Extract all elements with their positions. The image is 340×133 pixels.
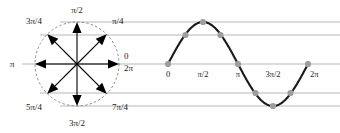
circle-label-8: 7π/4 bbox=[112, 102, 129, 112]
trig-figure: 02ππ/4π/23π/4π5π/43π/27π/4 0π/2π3π/22π bbox=[0, 0, 340, 133]
sine-point-3 bbox=[217, 32, 223, 38]
sine-point-5 bbox=[252, 90, 258, 96]
angle-arrows-group bbox=[35, 22, 119, 106]
x-tick-label-1: π/2 bbox=[198, 69, 209, 79]
circle-label-2: π/4 bbox=[112, 16, 124, 26]
circle-label-3: π/2 bbox=[71, 5, 83, 15]
x-tick-label-4: 2π bbox=[310, 69, 319, 79]
circle-label-0: 0 bbox=[124, 51, 129, 61]
sine-point-0 bbox=[165, 61, 171, 67]
sine-point-6 bbox=[270, 103, 276, 109]
sine-point-4 bbox=[235, 61, 241, 67]
x-tick-label-0: 0 bbox=[166, 69, 170, 79]
circle-label-4: 3π/4 bbox=[26, 16, 43, 26]
circle-label-1: 2π bbox=[124, 63, 134, 73]
figure-canvas: 02ππ/4π/23π/4π5π/43π/27π/4 0π/2π3π/22π bbox=[0, 0, 340, 133]
sine-point-2 bbox=[200, 19, 206, 25]
x-tick-label-2: π bbox=[236, 69, 241, 79]
sine-point-7 bbox=[287, 90, 293, 96]
circle-label-6: 5π/4 bbox=[26, 102, 43, 112]
sine-point-1 bbox=[182, 32, 188, 38]
x-tick-label-3: 3π/2 bbox=[265, 69, 280, 79]
sine-point-8 bbox=[305, 61, 311, 67]
circle-label-5: π bbox=[10, 59, 15, 69]
circle-label-7: 3π/2 bbox=[69, 118, 85, 128]
figure-background bbox=[0, 0, 340, 133]
